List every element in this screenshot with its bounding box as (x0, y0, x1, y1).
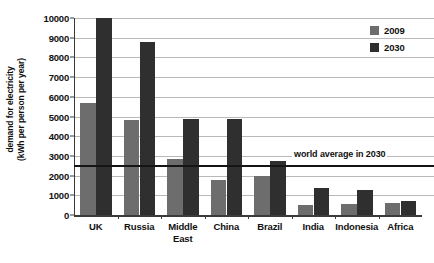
x-axis-label-indonesia: Indonesia (335, 221, 379, 233)
y-axis-tick-label: 4000 (49, 131, 69, 142)
x-axis-tick-mark (118, 215, 119, 219)
x-axis-label-middle-east: MiddleEast (161, 221, 205, 244)
bar-uk-2030 (96, 18, 112, 215)
x-axis-tick-mark (292, 215, 293, 219)
bar-middle-east-2030 (183, 119, 199, 215)
x-axis-tick-mark (205, 215, 206, 219)
x-axis-category-labels: UKRussiaMiddleEastChinaBrazilIndiaIndone… (74, 221, 422, 261)
bar-africa-2009 (385, 203, 401, 215)
bar-uk-2009 (80, 103, 96, 215)
y-axis-tick-label: 9000 (49, 32, 69, 43)
bar-india-2030 (314, 188, 330, 215)
y-axis-tick-label: 0 (64, 210, 69, 221)
legend-item-2030: 2030 (370, 39, 426, 56)
legend-swatch-2009 (370, 26, 379, 35)
x-axis-label-brazil: Brazil (248, 221, 292, 233)
x-axis-label-china: China (205, 221, 249, 233)
legend: 2009 2030 (370, 22, 426, 56)
bar-brazil-2009 (254, 176, 270, 215)
bar-brazil-2030 (270, 161, 286, 215)
x-axis-label-india: India (292, 221, 336, 233)
x-axis-tick-mark (335, 215, 336, 219)
y-axis-title-line1: demand for electricity (5, 58, 16, 161)
bar-middle-east-2009 (167, 159, 183, 215)
y-axis-tick-label: 10000 (44, 13, 69, 24)
legend-item-2009: 2009 (370, 22, 426, 39)
y-axis-title: demand for electricity (kWh per person p… (0, 0, 30, 218)
x-axis-tick-mark (248, 215, 249, 219)
bar-russia-2009 (124, 120, 140, 215)
x-axis-label-russia: Russia (118, 221, 162, 233)
y-axis-tick-label: 6000 (49, 91, 69, 102)
y-axis-title-line2: (kWh per person per year) (15, 58, 26, 161)
x-axis-tick-mark (161, 215, 162, 219)
x-axis-label-uk: UK (74, 221, 118, 233)
bar-china-2009 (211, 180, 227, 215)
y-axis-tick-label: 7000 (49, 72, 69, 83)
x-axis-label-africa: Africa (379, 221, 423, 233)
bar-china-2030 (227, 119, 243, 215)
y-axis-tick-labels: 0100020003000400050006000700080009000100… (28, 0, 74, 230)
world-average-line (74, 165, 434, 167)
legend-swatch-2030 (370, 43, 379, 52)
bar-india-2009 (298, 205, 314, 215)
x-axis-tick-mark (379, 215, 380, 219)
bar-africa-2030 (401, 201, 417, 215)
y-axis-tick-label: 3000 (49, 150, 69, 161)
legend-label-2030: 2030 (384, 42, 405, 53)
bar-chart: demand for electricity (kWh per person p… (0, 0, 434, 263)
bar-indonesia-2009 (341, 204, 357, 215)
y-axis-tick-label: 5000 (49, 111, 69, 122)
bar-indonesia-2030 (357, 190, 373, 215)
y-axis-tick-label: 2000 (49, 170, 69, 181)
bar-russia-2030 (140, 42, 156, 215)
legend-label-2009: 2009 (384, 25, 405, 36)
y-axis-tick-label: 8000 (49, 52, 69, 63)
y-axis-tick-label: 1000 (49, 190, 69, 201)
world-average-label: world average in 2030 (292, 149, 387, 159)
